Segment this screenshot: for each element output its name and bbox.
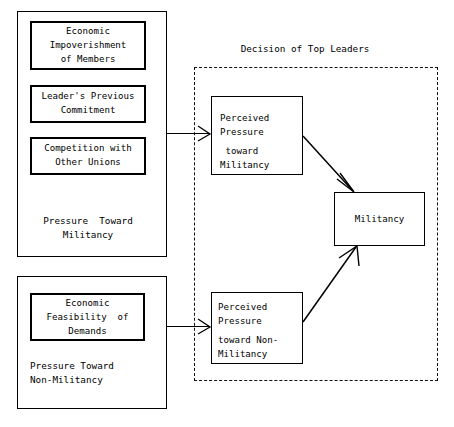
diagram-canvas: Decision of Top Leaders Economic Impover… [0,0,454,427]
arrow-perceived-militancy-to-outcome [303,136,354,192]
arrow-non-militancy-pressure-to-perceived [167,319,210,334]
arrow-perceived-non-militancy-to-outcome [303,246,359,322]
arrow-layer [0,0,454,427]
arrow-militancy-pressure-to-perceived [167,126,210,141]
